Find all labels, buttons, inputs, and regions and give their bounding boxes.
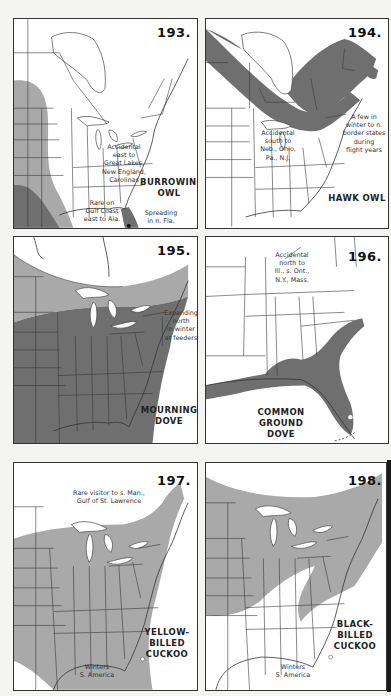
lake-okeechobee — [329, 655, 333, 659]
note-winters: Winters S. America — [268, 663, 318, 679]
lake-okeechobee — [348, 415, 352, 419]
keys-line — [335, 431, 357, 441]
species-name: COMMON GROUND DOVE — [246, 407, 316, 440]
map-number: 197. — [157, 473, 191, 488]
map-panel-hawk-owl: 194. Accidental south to Neb., Ohio, Pa.… — [205, 18, 389, 229]
note-gulf-coast: Rare on Gulf Coast east to Ala. — [78, 199, 126, 224]
map-panel-mourning-dove: 195. Expanding north in winter at feeder… — [13, 236, 198, 444]
map-number: 193. — [157, 25, 191, 40]
map-number: 194. — [348, 25, 382, 40]
species-name: YELLOW- BILLED CUCKOO — [136, 627, 198, 660]
note-spreading: Spreading in n. Fla. — [140, 209, 182, 225]
note-winters: Winters S. America — [72, 663, 122, 679]
map-panel-burrowing-owl: 193. Accidental east to Great Lakes, New… — [13, 18, 198, 229]
canada-lines — [34, 237, 109, 277]
species-name: HAWK OWL — [324, 193, 389, 204]
florida-marker — [127, 224, 131, 228]
page-edge-shadow — [387, 460, 391, 692]
note-expanding: Expanding north in winter at feeders — [160, 309, 198, 342]
hudson-bay — [52, 33, 106, 93]
note-accidental: Accidental north to Ill., s. Ont., N.Y.,… — [266, 251, 318, 284]
map-number: 195. — [157, 243, 191, 258]
map-panel-yellow-billed-cuckoo: 197. Rare visitor to s. Man., Gulf of St… — [13, 462, 198, 691]
note-winter: A few in winter to n. border states duri… — [336, 113, 389, 154]
map-panel-black-billed-cuckoo: 198. BLACK- BILLED CUCKOO Winters S. Ame… — [205, 462, 387, 691]
species-name: BURROWING OWL — [140, 177, 198, 199]
note-accidental: Accidental south to Neb., Ohio, Pa., N.J… — [252, 129, 304, 162]
note-rare-visitor: Rare visitor to s. Man., Gulf of St. Law… — [66, 489, 152, 505]
species-name: BLACK- BILLED CUCKOO — [324, 619, 386, 652]
map-number: 196. — [348, 249, 382, 264]
range-map — [206, 463, 386, 690]
species-name: MOURNING DOVE — [138, 405, 198, 427]
map-number: 198. — [348, 473, 382, 488]
map-panel-common-ground-dove: 196. Accidental north to Ill., s. Ont., … — [205, 236, 389, 444]
